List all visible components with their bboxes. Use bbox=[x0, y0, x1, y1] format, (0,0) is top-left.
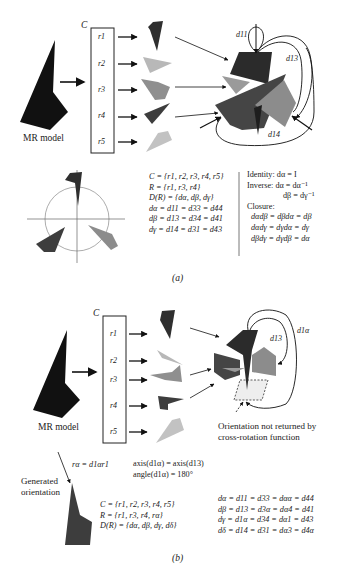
rotation-label-r1: r1 bbox=[98, 32, 105, 41]
eq-a-2: R = {r1, r3, r4} bbox=[149, 183, 223, 194]
missing-orientation-note: Orientation not returned by cross-rotati… bbox=[218, 421, 316, 443]
missing-orientation-outline bbox=[234, 380, 268, 400]
rotation-label-b-r3: r3 bbox=[110, 375, 117, 384]
polar-shape-left bbox=[36, 227, 65, 252]
rotation-label-r4: r4 bbox=[98, 111, 105, 120]
generated-orientation-label: Generated orientation bbox=[21, 476, 60, 498]
edge-label-d13: d13 bbox=[286, 54, 298, 63]
eq-a-1: C = {r1, r2, r3, r4, r5} bbox=[149, 172, 223, 183]
eq-b-3: D(R) = {dα, dβ, dγ, dδ} bbox=[100, 521, 177, 532]
polar-shape-top bbox=[65, 172, 82, 206]
rotation-label-r5: r5 bbox=[98, 137, 105, 146]
eq-a-3: D(R) = {dα, dβ, dγ} bbox=[149, 193, 223, 204]
eq-b-r2: dβ = d13 = d3α = dα4 = d41 bbox=[218, 505, 314, 516]
rotation-label-b-r2: r2 bbox=[110, 356, 117, 365]
edge-label-d14: d14 bbox=[268, 130, 280, 139]
axis-equation: axis(d1α) = axis(d13) bbox=[133, 459, 204, 470]
equations-a-right: Identity: dα = I Inverse: dα = dα⁻¹ dβ =… bbox=[247, 170, 314, 244]
eq-b-2: R = {r1, r3, r4, rα} bbox=[100, 511, 177, 522]
container-label-a: C bbox=[81, 20, 87, 30]
rotation-label-b-r5: r5 bbox=[110, 427, 117, 436]
eq-b-1: C = {r1, r2, r3, r4, r5} bbox=[100, 500, 177, 511]
model-label-a: MR model bbox=[23, 133, 64, 143]
ra-equation: rα = d1αr1 bbox=[72, 460, 109, 471]
gen-line-1: Generated bbox=[21, 476, 60, 487]
eq-b-r4: dδ = d14 = d31 = dα3 = d4α bbox=[218, 526, 314, 537]
rotation-label-b-r4: r4 bbox=[110, 401, 117, 410]
rotated-shape-r1 bbox=[148, 21, 163, 51]
eq-b-r1: dα = d11 = d33 = dαα = d44 bbox=[218, 494, 314, 505]
eq-a-5: dβ = d13 = d34 = d41 bbox=[149, 214, 223, 225]
inverse-eq-2: dβ = dγ⁻¹ bbox=[247, 191, 314, 202]
edge-label-b-d1a: d1α bbox=[297, 326, 309, 335]
rotated-shape-r3 bbox=[141, 79, 170, 100]
inverse-eq-1: Inverse: dα = dα⁻¹ bbox=[247, 181, 314, 192]
mr-model-shape-b bbox=[33, 330, 80, 418]
rotation-label-r3: r3 bbox=[98, 85, 105, 94]
closure-eq-1: dαdβ = dβdα = dβ bbox=[247, 212, 314, 223]
rotation-label-r2: r2 bbox=[98, 59, 105, 68]
rotation-label-b-r1: r1 bbox=[110, 329, 117, 338]
angle-equation: angle(d1α) = 180° bbox=[133, 470, 193, 481]
closure-eq-3: dβdγ = dγdβ = dα bbox=[247, 234, 314, 245]
container-label-b: C bbox=[93, 308, 99, 318]
eq-a-6: dγ = d14 = d31 = d43 bbox=[149, 225, 223, 236]
gen-line-2: orientation bbox=[21, 487, 60, 498]
edge-label-d11: d11 bbox=[236, 30, 247, 39]
mr-model-shape-a bbox=[20, 40, 68, 130]
rotated-shape-r2 bbox=[143, 57, 172, 73]
polar-shape-right bbox=[88, 225, 118, 250]
generated-orientation-shape bbox=[65, 483, 92, 545]
caption-b: (b) bbox=[172, 553, 183, 563]
note-line-1: Orientation not returned by bbox=[218, 421, 316, 432]
caption-a: (a) bbox=[172, 273, 183, 283]
equations-a-left: C = {r1, r2, r3, r4, r5} R = {r1, r3, r4… bbox=[149, 172, 223, 236]
rotated-shape-r4 bbox=[144, 103, 170, 124]
edge-label-b-d13: d13 bbox=[270, 334, 282, 343]
closure-eq-2: dαdγ = dγdα = dγ bbox=[247, 223, 314, 234]
equations-b-left: C = {r1, r2, r3, r4, r5} R = {r1, r3, r4… bbox=[100, 500, 177, 532]
rotated-shape-r5 bbox=[146, 131, 172, 152]
note-line-2: cross-rotation function bbox=[218, 432, 316, 443]
model-label-b: MR model bbox=[38, 422, 79, 432]
eq-a-4: dα = d11 = d33 = d44 bbox=[149, 204, 223, 215]
eq-b-r3: dγ = d1α = d34 = dα1 = d43 bbox=[218, 515, 314, 526]
closure-title: Closure: bbox=[247, 202, 314, 213]
identity-eq: Identity: dα = I bbox=[247, 170, 314, 181]
equations-b-right: dα = d11 = d33 = dαα = d44 dβ = d13 = d3… bbox=[218, 494, 314, 536]
